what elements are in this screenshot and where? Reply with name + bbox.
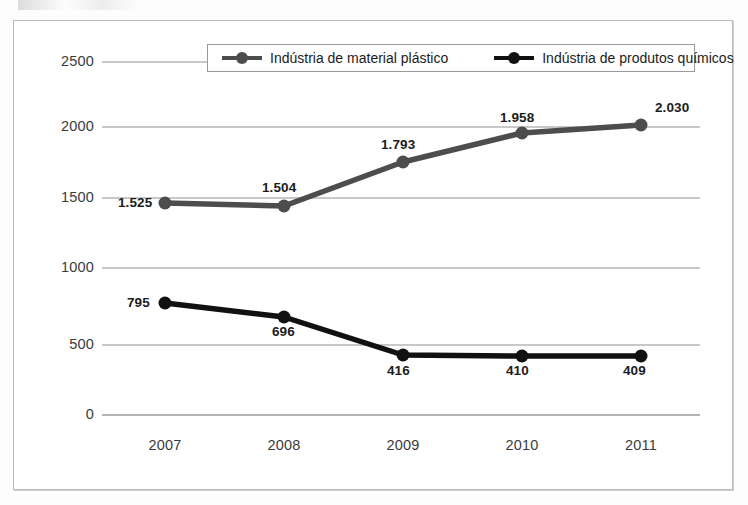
- data-label-plastic-2011: 2.030: [655, 100, 689, 115]
- data-point-plastic-2007[interactable]: [159, 197, 172, 210]
- data-label-chemical-2010: 410: [506, 363, 529, 378]
- data-point-chemical-2007[interactable]: [159, 297, 172, 310]
- data-point-chemical-2008[interactable]: [278, 311, 291, 324]
- legend-label-plastic: Indústria de material plástico: [270, 50, 448, 66]
- data-point-chemical-2010[interactable]: [516, 350, 529, 363]
- data-label-chemical-2009: 416: [387, 363, 410, 378]
- gridline-1000: [102, 267, 700, 269]
- data-point-plastic-2010[interactable]: [516, 127, 529, 140]
- scanned-page: 2500 2000 1500 1000 500 0 2007 2008 2009…: [0, 0, 748, 505]
- y-axis-tick-2500: 2500: [34, 53, 94, 69]
- data-label-chemical-2007: 795: [127, 295, 150, 310]
- data-label-chemical-2008: 696: [272, 324, 295, 339]
- legend-item-plastic[interactable]: Indústria de material plástico: [222, 45, 448, 71]
- data-label-plastic-2010: 1.958: [500, 110, 534, 125]
- legend-label-chemical: Indústria de produtos químicos: [542, 50, 733, 66]
- x-axis-tick-2011: 2011: [596, 437, 686, 453]
- y-axis-tick-500: 500: [34, 336, 94, 352]
- data-point-plastic-2011[interactable]: [635, 119, 648, 132]
- y-axis-tick-2000: 2000: [34, 118, 94, 134]
- gridline-0: [102, 414, 700, 416]
- legend-marker-plastic-icon: [222, 51, 262, 65]
- data-label-plastic-2008: 1.504: [262, 180, 296, 195]
- data-point-plastic-2008[interactable]: [278, 200, 291, 213]
- chart-legend: Indústria de material plástico Indústria…: [207, 44, 695, 72]
- x-axis-tick-2009: 2009: [358, 437, 448, 453]
- data-point-plastic-2009[interactable]: [397, 156, 410, 169]
- chart-plot-area: 2500 2000 1500 1000 500 0 2007 2008 2009…: [0, 0, 748, 505]
- x-axis-tick-2010: 2010: [477, 437, 567, 453]
- data-label-plastic-2007: 1.525: [118, 195, 152, 210]
- gridline-1500: [102, 197, 700, 199]
- legend-marker-chemical-icon: [494, 51, 534, 65]
- data-label-plastic-2009: 1.793: [381, 137, 415, 152]
- y-axis-tick-0: 0: [34, 406, 94, 422]
- y-axis-tick-1000: 1000: [34, 259, 94, 275]
- data-label-chemical-2011: 409: [623, 363, 646, 378]
- legend-item-chemical[interactable]: Indústria de produtos químicos: [494, 45, 733, 71]
- y-axis-tick-1500: 1500: [34, 189, 94, 205]
- x-axis-tick-2008: 2008: [239, 437, 329, 453]
- data-point-chemical-2011[interactable]: [635, 350, 648, 363]
- x-axis-tick-2007: 2007: [120, 437, 210, 453]
- series-lines: [0, 0, 748, 505]
- gridline-500: [102, 344, 700, 346]
- data-point-chemical-2009[interactable]: [397, 349, 410, 362]
- gridline-2000: [102, 126, 700, 128]
